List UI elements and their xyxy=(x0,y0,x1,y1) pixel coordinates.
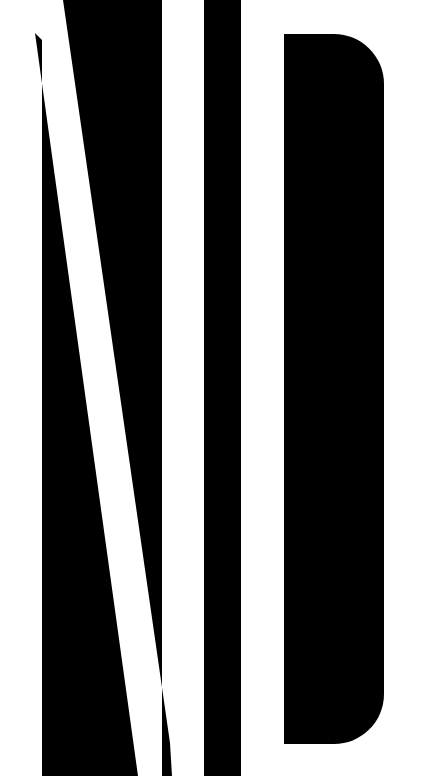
d-shape xyxy=(284,34,384,744)
abstract-letterform-artwork xyxy=(0,0,426,776)
vertical-bar xyxy=(204,0,241,776)
